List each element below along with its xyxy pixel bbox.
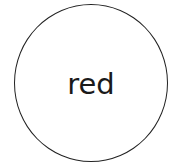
node-label: red — [67, 70, 115, 99]
circle-node: red — [14, 4, 168, 162]
